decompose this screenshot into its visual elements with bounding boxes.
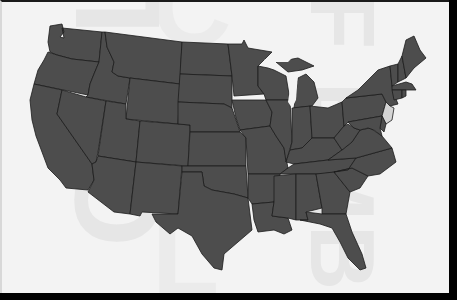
state-wy[interactable]	[126, 78, 180, 124]
state-co[interactable]	[136, 121, 190, 166]
state-ks[interactable]	[188, 132, 246, 166]
state-me[interactable]	[402, 36, 426, 78]
state-ms[interactable]	[272, 174, 296, 220]
state-nm[interactable]	[130, 162, 182, 216]
state-az[interactable]	[88, 156, 136, 214]
state-fl[interactable]	[300, 212, 366, 270]
state-wi[interactable]	[258, 66, 290, 100]
map-frame: C OF L OF EMB L	[0, 0, 449, 293]
state-ct[interactable]	[392, 90, 402, 100]
state-ri[interactable]	[402, 90, 406, 98]
state-nd[interactable]	[180, 42, 232, 76]
us-map	[2, 2, 449, 293]
